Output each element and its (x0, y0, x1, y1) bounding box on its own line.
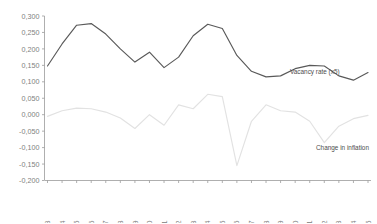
x-tick-label: 1975 (218, 221, 227, 224)
y-tick-label: 0,150 (22, 61, 40, 70)
chart-container: 0,3000,2500,2000,1500,1000,0500,000-0,05… (0, 0, 377, 223)
x-tick-label: 1965 (72, 221, 81, 224)
x-tick-label: 1984 (349, 221, 358, 224)
x-tick-label: 1969 (131, 221, 140, 224)
line-chart: 0,3000,2500,2000,1500,1000,0500,000-0,05… (0, 0, 377, 223)
x-tick-label: 1964 (58, 221, 67, 224)
x-tick-label: 1978 (262, 221, 271, 224)
x-tick-label: 1963 (43, 221, 52, 224)
y-tick-label: -0,150 (19, 160, 39, 169)
series-annotation-vacancy-rate: Vacancy rate (x5) (290, 68, 340, 76)
series-annotation-change-in-inflation: Change in inflation (316, 144, 369, 152)
x-tick-label: 1974 (203, 221, 212, 224)
x-tick-label: 1970 (145, 221, 154, 224)
x-tick-label: 1968 (116, 221, 125, 224)
y-tick-label: 0,250 (22, 28, 40, 37)
y-tick-label: 0,050 (22, 94, 40, 103)
y-axis: 0,3000,2500,2000,1500,1000,0500,000-0,05… (19, 12, 44, 186)
y-tick-label: -0,200 (19, 176, 39, 185)
x-tick-label: 1983 (334, 221, 343, 224)
x-tick-label: 1967 (101, 221, 110, 224)
x-tick-label: 1979 (276, 221, 285, 224)
x-tick-label: 1972 (174, 221, 183, 224)
y-tick-label: -0,050 (19, 127, 39, 136)
x-tick-label: 1977 (247, 221, 256, 224)
x-tick-label: 1973 (189, 221, 198, 224)
series-line-change-in-inflation (48, 94, 369, 165)
x-tick-label: 1981 (305, 221, 314, 224)
x-tick-label: 1966 (87, 221, 96, 224)
y-tick-label: 0,100 (22, 77, 40, 86)
y-tick-label: 0,000 (22, 110, 40, 119)
x-tick-label: 1985 (364, 221, 373, 224)
x-tick-label: 1982 (320, 221, 329, 224)
x-tick-label: 1980 (291, 221, 300, 224)
y-tick-label: 0,300 (22, 12, 40, 21)
y-tick-label: 0,200 (22, 45, 40, 54)
y-tick-label: -0,100 (19, 143, 39, 152)
x-tick-label: 1971 (160, 221, 169, 224)
x-tick-label: 1976 (232, 221, 241, 224)
x-axis: 1963196419651966196719681969197019711972… (43, 181, 373, 224)
